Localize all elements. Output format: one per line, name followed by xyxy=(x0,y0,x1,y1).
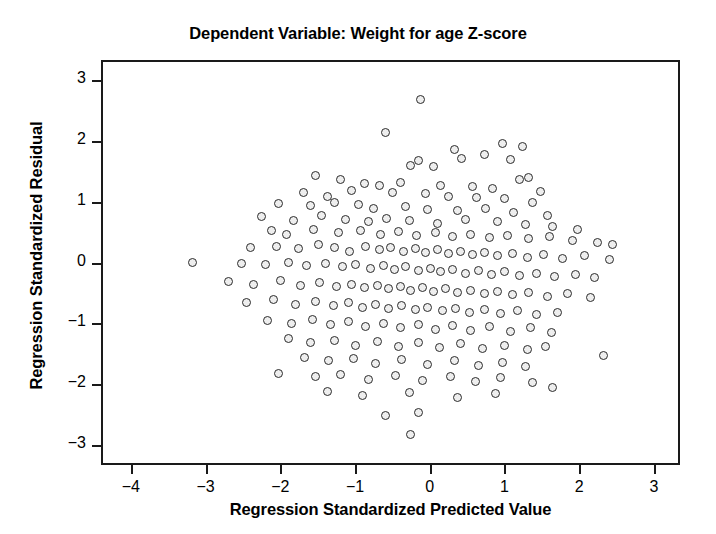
data-point xyxy=(388,188,397,197)
data-point xyxy=(332,282,341,291)
data-point xyxy=(441,284,450,293)
data-point xyxy=(375,181,384,190)
data-point xyxy=(474,266,483,275)
data-point xyxy=(394,227,403,236)
data-point xyxy=(324,356,333,365)
y-axis-tick-label: 2 xyxy=(46,130,86,148)
data-point xyxy=(461,215,470,224)
data-point xyxy=(396,282,405,291)
data-point xyxy=(276,276,285,285)
data-point xyxy=(480,248,489,257)
data-point xyxy=(274,369,283,378)
data-point xyxy=(423,303,432,312)
data-point xyxy=(491,389,500,398)
data-point xyxy=(306,338,315,347)
data-point xyxy=(446,372,455,381)
data-point xyxy=(349,354,358,363)
data-point xyxy=(360,283,369,292)
data-point xyxy=(548,383,557,392)
data-point xyxy=(358,303,367,312)
data-point xyxy=(436,267,445,276)
y-axis-tick-label: −3 xyxy=(46,434,86,452)
data-point xyxy=(509,208,518,217)
data-point xyxy=(480,289,489,298)
data-point xyxy=(330,243,339,252)
data-point xyxy=(269,295,278,304)
data-point xyxy=(361,322,370,331)
data-point xyxy=(524,234,533,243)
data-point xyxy=(500,341,509,350)
data-point xyxy=(496,373,505,382)
y-axis-tick xyxy=(92,80,101,82)
data-point xyxy=(351,260,360,269)
x-axis-tick-label: 0 xyxy=(410,478,450,496)
data-point xyxy=(314,240,323,249)
y-axis-tick-label: −1 xyxy=(46,312,86,330)
data-point xyxy=(500,267,509,276)
data-point xyxy=(599,351,608,360)
data-point xyxy=(401,202,410,211)
data-point xyxy=(558,254,567,263)
data-point xyxy=(488,184,497,193)
data-point xyxy=(423,360,432,369)
y-axis-tick xyxy=(92,445,101,447)
data-point xyxy=(311,171,320,180)
x-axis-tick-label: −1 xyxy=(335,478,375,496)
data-point xyxy=(394,342,403,351)
data-point xyxy=(390,265,399,274)
data-point xyxy=(381,128,390,137)
data-point xyxy=(308,315,317,324)
data-point xyxy=(336,370,345,379)
x-axis-tick-label: 3 xyxy=(634,478,674,496)
data-point xyxy=(396,323,405,332)
data-point xyxy=(323,387,332,396)
data-point xyxy=(414,156,423,165)
x-axis-tick xyxy=(654,465,656,474)
data-point xyxy=(444,192,453,201)
data-point xyxy=(485,322,494,331)
x-axis-tick-label: −3 xyxy=(186,478,226,496)
data-point xyxy=(521,362,530,371)
data-point xyxy=(361,242,370,251)
data-point xyxy=(466,230,475,239)
data-point xyxy=(472,193,481,202)
data-point xyxy=(354,200,363,209)
data-point xyxy=(315,278,324,287)
data-point xyxy=(438,306,447,315)
data-point xyxy=(493,217,502,226)
data-point xyxy=(411,244,420,253)
data-point xyxy=(246,243,255,252)
y-axis-tick xyxy=(92,141,101,143)
data-point xyxy=(257,212,266,221)
data-point xyxy=(309,225,318,234)
data-point xyxy=(334,228,343,237)
page-title: Dependent Variable: Weight for age Z-sco… xyxy=(0,24,716,43)
data-point xyxy=(448,321,457,330)
x-axis-tick-label: 2 xyxy=(559,478,599,496)
data-point xyxy=(344,317,353,326)
data-point xyxy=(406,161,415,170)
data-point xyxy=(608,240,617,249)
data-point xyxy=(568,236,577,245)
y-axis-tick-label: 0 xyxy=(46,252,86,270)
data-point xyxy=(493,287,502,296)
data-point xyxy=(418,376,427,385)
data-point xyxy=(311,297,320,306)
data-point xyxy=(344,298,353,307)
data-point xyxy=(330,336,339,345)
data-point xyxy=(306,201,315,210)
data-point xyxy=(263,316,272,325)
data-point xyxy=(414,320,423,329)
data-point xyxy=(508,249,517,258)
data-point xyxy=(401,262,410,271)
data-point xyxy=(379,319,388,328)
data-point xyxy=(414,338,423,347)
data-point xyxy=(593,238,602,247)
data-point xyxy=(267,226,276,235)
data-point xyxy=(513,306,522,315)
data-point xyxy=(532,269,541,278)
data-point xyxy=(397,355,406,364)
data-point xyxy=(433,219,442,228)
data-point xyxy=(524,173,533,182)
data-point xyxy=(448,232,457,241)
